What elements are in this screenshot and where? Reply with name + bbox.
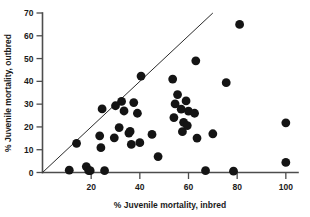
x-tick-label: 100 [279, 182, 293, 192]
data-point [97, 143, 106, 152]
data-point [191, 56, 200, 65]
data-point [173, 90, 182, 99]
y-tick-label: 30 [24, 99, 34, 109]
x-tick-label: 40 [135, 182, 145, 192]
x-axis-group: 20406080100 [43, 173, 299, 193]
data-point [98, 105, 107, 114]
data-point [190, 109, 199, 118]
data-point [182, 97, 191, 106]
y-tick-marks [37, 13, 43, 173]
y-tick-label: 10 [24, 145, 34, 155]
data-point [281, 118, 290, 127]
y-tick-label: 70 [24, 8, 34, 18]
data-point [281, 158, 290, 167]
y-axis-group: 010203040506070 [24, 8, 42, 178]
y-tick-label: 50 [24, 54, 34, 64]
y-axis-title: % Juvenile mortality, outbred [3, 34, 13, 152]
x-tick-label: 60 [184, 182, 194, 192]
data-point [183, 121, 192, 130]
y-tick-labels: 010203040506070 [24, 8, 34, 178]
data-point [126, 127, 135, 136]
data-point [193, 134, 202, 143]
data-point [201, 166, 210, 175]
data-point [229, 167, 238, 176]
y-tick-label: 60 [24, 31, 34, 41]
x-tick-labels: 20406080100 [86, 182, 293, 192]
data-point [110, 133, 119, 142]
x-tick-label: 20 [86, 182, 96, 192]
data-point [100, 166, 109, 175]
data-point [208, 129, 217, 138]
data-point [170, 113, 179, 122]
data-point [222, 78, 231, 87]
data-point [148, 130, 157, 139]
data-point [135, 138, 144, 147]
data-point [168, 75, 177, 84]
data-point [65, 166, 74, 175]
data-point [129, 98, 138, 107]
data-point [86, 166, 95, 175]
data-point [72, 139, 81, 148]
data-point [127, 140, 136, 149]
y-tick-label: 0 [29, 168, 34, 178]
scatter-plot-figure: 010203040506070 20406080100 % Juvenile m… [0, 0, 310, 217]
data-point [137, 72, 146, 81]
y-tick-label: 20 [24, 122, 34, 132]
unity-line [43, 13, 213, 173]
unity-reference-line [43, 13, 213, 173]
data-points-group [65, 20, 290, 176]
data-point [120, 107, 129, 116]
data-point [117, 97, 126, 106]
data-point [115, 123, 124, 132]
plot-canvas: 010203040506070 20406080100 % Juvenile m… [0, 0, 310, 217]
data-point [154, 152, 163, 161]
x-axis-title: % Juvenile mortality, inbred [114, 200, 226, 210]
data-point [95, 131, 104, 140]
data-point [235, 20, 244, 29]
x-tick-label: 80 [232, 182, 242, 192]
y-tick-label: 40 [24, 76, 34, 86]
data-point [133, 109, 142, 118]
x-tick-marks [91, 173, 286, 180]
